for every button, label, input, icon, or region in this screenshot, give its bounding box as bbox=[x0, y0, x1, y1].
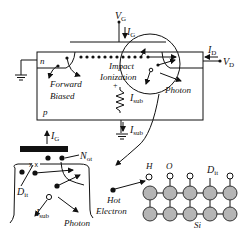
interface-state-mark: x x bbox=[29, 161, 38, 168]
svg-text:Not: Not bbox=[79, 150, 92, 163]
svg-text:VG: VG bbox=[115, 10, 126, 23]
oxygen-label: O bbox=[166, 161, 173, 171]
not-pointer bbox=[65, 155, 79, 158]
hydrogen-label: H bbox=[145, 161, 153, 171]
channel-electrons bbox=[79, 55, 142, 58]
svg-text:Dit: Dit bbox=[206, 164, 218, 177]
biased-label: Biased bbox=[50, 91, 75, 101]
n-region-label: n bbox=[40, 56, 45, 66]
drain-edge bbox=[61, 162, 84, 185]
ground-icon bbox=[116, 134, 128, 139]
gate-bar bbox=[20, 146, 68, 152]
surface-atoms bbox=[146, 173, 233, 180]
svg-text:VD: VD bbox=[223, 56, 234, 69]
hot-electron-dot bbox=[110, 187, 115, 192]
svg-text:Isub: Isub bbox=[129, 92, 144, 105]
svg-text:IG: IG bbox=[50, 130, 59, 143]
impact-ionization-arrows bbox=[141, 49, 181, 84]
source-ground-wire bbox=[21, 60, 37, 75]
hot-carrier-diagram: x x bbox=[0, 0, 250, 241]
dit-pointer bbox=[21, 165, 33, 186]
photon-label-lower: Photon bbox=[63, 218, 90, 228]
ionization-label: Ionization bbox=[99, 72, 137, 82]
forward-label: Forward bbox=[49, 79, 82, 89]
electron-label: Electron bbox=[95, 206, 127, 216]
oxide-detail: x x bbox=[10, 131, 93, 223]
svg-text:IG: IG bbox=[126, 26, 135, 39]
impact-label: Impact bbox=[108, 61, 134, 71]
svg-text:Isub: Isub bbox=[35, 207, 50, 220]
plus-sign: + bbox=[113, 81, 118, 90]
svg-text:Isub: Isub bbox=[129, 124, 144, 137]
substrate-resistor bbox=[116, 87, 124, 113]
lattice-detail bbox=[110, 173, 237, 221]
forward-biased-arrows bbox=[49, 56, 80, 78]
svg-text:Dit: Dit bbox=[16, 186, 28, 199]
drain-region bbox=[162, 52, 203, 68]
si-label: Si bbox=[194, 220, 202, 230]
photon-label-top: Photon bbox=[164, 85, 191, 95]
p-region-label: p bbox=[42, 107, 48, 117]
ground-icon bbox=[15, 75, 27, 80]
svg-text:ID: ID bbox=[207, 44, 216, 57]
hot-label: Hot bbox=[106, 195, 121, 205]
